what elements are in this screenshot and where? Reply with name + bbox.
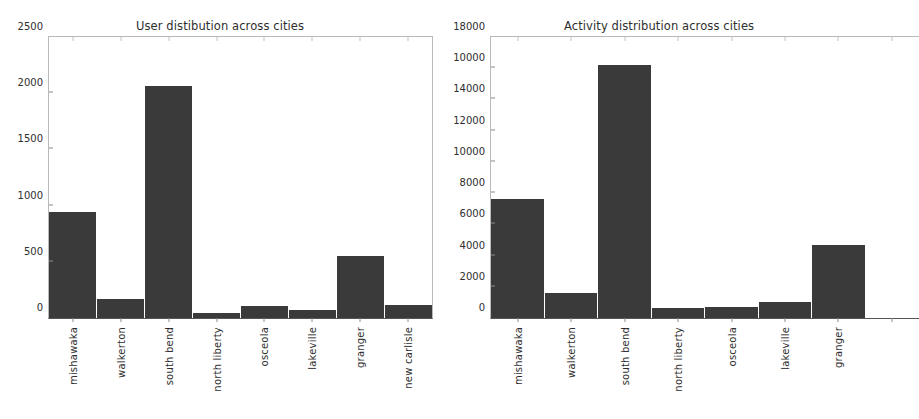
y-axis-tick-label: 1500 <box>18 134 49 144</box>
y-axis-tick-mark <box>491 129 495 130</box>
top-spine-tick-mark <box>784 37 785 41</box>
x-axis-label-slot: granger <box>812 318 865 418</box>
top-spine-tick-mark <box>168 37 169 41</box>
x-axis-tick-label: north liberty <box>673 327 684 392</box>
y-axis-tick-mark <box>49 92 53 93</box>
bar <box>49 212 97 318</box>
bar <box>812 245 866 318</box>
x-axis-label-slot: north liberty <box>193 318 241 418</box>
y-axis-tick-label: 2500 <box>18 22 49 32</box>
y-axis-tick-label: 10000 <box>453 53 491 63</box>
x-axis-label-slot: granger <box>336 318 384 418</box>
chart-title-right: Activity distribution across cities <box>564 19 754 33</box>
bar <box>289 310 337 318</box>
top-spine-tick-mark <box>216 37 217 41</box>
plot-area-left: 05001000150020002500 mishawakawalkertons… <box>48 36 433 319</box>
y-axis-tick-label: 2000 <box>460 272 491 282</box>
y-axis-tick-label: 14000 <box>453 84 491 94</box>
x-axis-label-slot: new carlisle <box>384 318 432 418</box>
top-spine-tick-mark <box>731 37 732 41</box>
bar <box>705 307 759 318</box>
bar-series-right <box>491 37 919 318</box>
bar <box>759 302 813 318</box>
x-axis-tick-label: south bend <box>163 327 174 385</box>
y-axis-tick-mark <box>491 160 495 161</box>
y-axis-tick-mark <box>491 254 495 255</box>
top-spine-tick-mark <box>72 37 73 41</box>
y-axis-tick-label: 12000 <box>453 116 491 126</box>
y-axis-tick-mark <box>491 98 495 99</box>
y-axis-tick-mark <box>491 192 495 193</box>
bar <box>598 65 652 318</box>
y-axis-tick-mark <box>491 285 495 286</box>
chart-panel-user-distribution: User distibution across cities 050010001… <box>0 0 438 419</box>
x-axis-label-slot: walkerton <box>544 318 597 418</box>
chart-panel-activity-distribution: Activity distribution across cities 0200… <box>438 0 857 419</box>
top-spine-tick-mark <box>678 37 679 41</box>
x-axis-label-slot <box>865 318 918 418</box>
x-axis-tick-label: walkerton <box>115 327 126 378</box>
bar <box>652 308 706 318</box>
x-axis-tick-label: granger <box>355 327 366 368</box>
x-axis-tick-label: north liberty <box>211 327 222 392</box>
y-axis-tick-mark <box>491 223 495 224</box>
x-axis-tick-label: lakeville <box>307 327 318 370</box>
x-axis-label-slot: mishawaka <box>49 318 97 418</box>
x-axis-label-slot: osceola <box>241 318 289 418</box>
bar <box>491 199 545 318</box>
bar <box>337 256 385 318</box>
y-axis-tick-label: 0 <box>479 303 491 313</box>
top-spine-tick-mark <box>360 37 361 41</box>
y-axis-tick-label: 6000 <box>460 209 491 219</box>
y-axis-tick-label: 500 <box>24 247 49 257</box>
plot-area-right: 0200040006000800010000120001400010000180… <box>490 36 919 319</box>
bar <box>545 293 599 318</box>
y-axis-tick-mark <box>491 67 495 68</box>
top-spine-tick-mark <box>120 37 121 41</box>
top-spine-tick-mark <box>838 37 839 41</box>
x-axis-label-slot: osceola <box>705 318 758 418</box>
x-axis-label-slot: walkerton <box>97 318 145 418</box>
x-axis-label-slot: lakeville <box>288 318 336 418</box>
y-axis-tick-mark <box>49 148 53 149</box>
top-spine-tick-mark <box>312 37 313 41</box>
x-axis-label-slot: north liberty <box>651 318 704 418</box>
top-spine-tick-mark <box>624 37 625 41</box>
bar-series-left <box>49 37 432 318</box>
x-axis-tick-label: granger <box>833 327 844 368</box>
chart-title-left: User distibution across cities <box>136 19 304 33</box>
bar <box>97 299 145 318</box>
x-axis-labels-right: mishawakawalkertonsouth bendnorth libert… <box>491 318 919 418</box>
x-axis-tick-label: osceola <box>259 327 270 366</box>
top-spine-tick-mark <box>891 37 892 41</box>
bar <box>385 305 432 318</box>
x-axis-tick-label: new carlisle <box>403 327 414 389</box>
x-axis-label-slot: lakeville <box>758 318 811 418</box>
x-axis-label-slot: south bend <box>598 318 651 418</box>
top-spine-tick-mark <box>571 37 572 41</box>
x-axis-tick-label: osceola <box>726 327 737 366</box>
x-axis-tick-label: walkerton <box>566 327 577 378</box>
y-axis-tick-label: 4000 <box>460 241 491 251</box>
x-axis-tick-label: mishawaka <box>67 327 78 385</box>
y-axis-tick-label: 2000 <box>18 78 49 88</box>
y-axis-tick-mark <box>49 204 53 205</box>
x-axis-label-slot: south bend <box>145 318 193 418</box>
top-spine-tick-mark <box>264 37 265 41</box>
x-axis-label-slot: mishawaka <box>491 318 544 418</box>
y-axis-tick-mark <box>49 260 53 261</box>
x-axis-labels-left: mishawakawalkertonsouth bendnorth libert… <box>49 318 432 418</box>
y-axis-tick-label: 10000 <box>453 147 491 157</box>
y-axis-tick-label: 8000 <box>460 178 491 188</box>
x-axis-tick-label: mishawaka <box>512 327 523 385</box>
y-axis-tick-label: 0 <box>37 303 49 313</box>
top-spine-tick-mark <box>408 37 409 41</box>
y-axis-tick-label: 1000 <box>18 191 49 201</box>
x-axis-tick-label: lakeville <box>779 327 790 370</box>
bar <box>145 86 193 318</box>
bar <box>241 306 289 318</box>
y-axis-tick-label: 18000 <box>453 22 491 32</box>
top-spine-tick-mark <box>517 37 518 41</box>
x-axis-tick-label: south bend <box>619 327 630 385</box>
